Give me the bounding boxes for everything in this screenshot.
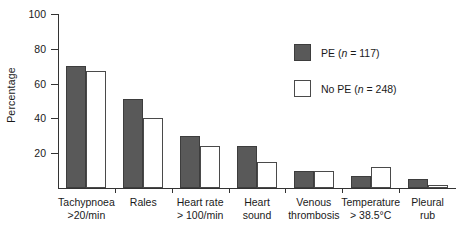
bar-no-pe (314, 171, 334, 188)
y-axis-label: Percentage (0, 0, 22, 190)
legend-label: No PE (n = 248) (321, 83, 397, 95)
y-tick-label: 60 (16, 78, 46, 90)
bar-pe (408, 179, 428, 188)
y-tick-mark (51, 84, 58, 85)
bar-pe (123, 99, 143, 188)
x-tick-mark (285, 189, 286, 193)
chart-legend: PE (n = 117)No PE (n = 248) (294, 44, 397, 116)
legend-item-no-pe: No PE (n = 248) (294, 80, 397, 97)
bar-pe (180, 136, 200, 188)
y-tick-mark (51, 49, 58, 50)
x-tick-mark (172, 189, 173, 193)
x-tick-mark (342, 189, 343, 193)
bar-pe (66, 66, 86, 188)
bar-pe (351, 176, 371, 188)
legend-label: PE (n = 117) (321, 47, 379, 59)
y-tick-label: 20 (16, 147, 46, 159)
category-label-line: >20/min (52, 209, 121, 222)
legend-swatch (294, 80, 311, 97)
x-tick-mark (399, 189, 400, 193)
bar-no-pe (257, 162, 277, 188)
bar-pe (237, 146, 257, 188)
x-tick-mark (229, 189, 230, 193)
bar-no-pe (371, 167, 391, 188)
bar-pe (294, 171, 314, 188)
y-tick-mark (51, 153, 58, 154)
category-label: Pleuralrub (393, 196, 462, 221)
bar-no-pe (200, 146, 220, 188)
y-tick-mark (51, 14, 58, 15)
y-tick-label: 80 (16, 43, 46, 55)
bar-chart: Percentage 20406080100 Tachypnoea>20/min… (0, 0, 467, 244)
y-tick-label: 40 (16, 112, 46, 124)
bar-no-pe (428, 185, 448, 188)
legend-item-pe: PE (n = 117) (294, 44, 397, 61)
category-label-line: rub (393, 209, 462, 222)
bar-no-pe (143, 118, 163, 188)
y-tick-mark (51, 118, 58, 119)
legend-swatch (294, 44, 311, 61)
y-tick-label: 100 (16, 8, 46, 20)
category-label-line: Pleural (393, 196, 462, 209)
x-axis-line (58, 188, 456, 189)
bar-no-pe (86, 71, 106, 188)
x-tick-mark (115, 189, 116, 193)
